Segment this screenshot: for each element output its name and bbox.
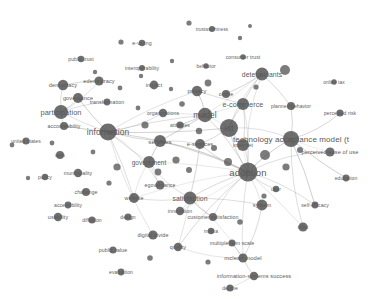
network-node-unlabeled[interactable] [10,143,15,148]
network-node-unlabeled[interactable] [93,70,97,74]
network-node-unlabeled[interactable] [196,128,202,134]
network-edge [190,198,262,205]
network-node-unlabeled[interactable] [261,193,266,198]
network-node[interactable] [129,193,139,203]
network-node[interactable] [82,188,90,196]
network-node-unlabeled[interactable] [238,36,242,40]
network-node[interactable] [139,65,145,71]
network-node[interactable] [155,180,164,189]
network-node[interactable] [239,163,258,182]
network-node-unlabeled[interactable] [91,150,96,155]
network-node[interactable] [198,108,212,122]
network-node[interactable] [78,56,84,62]
network-node-unlabeled[interactable] [179,101,185,107]
network-node-unlabeled[interactable] [169,87,173,91]
network-node-unlabeled[interactable] [211,145,217,151]
network-node[interactable] [150,81,159,90]
network-node[interactable] [154,135,166,147]
network-node[interactable] [312,202,319,209]
network-node[interactable] [273,186,279,192]
network-node-unlabeled[interactable] [106,180,111,185]
network-node[interactable] [287,102,295,110]
network-node-unlabeled[interactable] [172,156,179,163]
network-node[interactable] [159,109,167,117]
network-node[interactable] [226,284,233,291]
network-node-unlabeled[interactable] [118,86,123,91]
network-node[interactable] [88,216,95,223]
network-node-unlabeled[interactable] [205,80,212,87]
network-node[interactable] [283,131,299,147]
network-node[interactable] [325,147,334,156]
network-node[interactable] [192,86,202,96]
network-node-unlabeled[interactable] [170,59,174,63]
network-node[interactable] [208,228,214,234]
network-node[interactable] [195,139,205,149]
network-edge [291,113,340,139]
network-node-unlabeled[interactable] [113,163,120,170]
network-node[interactable] [148,230,157,239]
network-node[interactable] [60,122,68,130]
network-node[interactable] [228,239,235,246]
network-node[interactable] [73,93,83,103]
network-node[interactable] [237,98,249,110]
network-node[interactable] [74,169,82,177]
network-node[interactable] [238,253,247,262]
network-node-unlabeled[interactable] [253,84,258,89]
network-node[interactable] [174,243,182,251]
network-node[interactable] [257,200,268,211]
network-node[interactable] [209,26,215,32]
network-node[interactable] [336,109,343,116]
network-node[interactable] [56,151,64,159]
network-node-unlabeled[interactable] [224,158,232,166]
network-node-unlabeled[interactable] [260,150,270,160]
network-node[interactable] [65,202,72,209]
network-node[interactable] [109,246,116,253]
network-node[interactable] [240,54,246,60]
network-node[interactable] [118,269,125,276]
network-node[interactable] [124,213,131,220]
network-node-unlabeled[interactable] [248,24,252,28]
network-node[interactable] [256,68,269,81]
network-node-unlabeled[interactable] [186,20,191,25]
network-node-unlabeled[interactable] [141,121,148,128]
network-edge [248,172,303,227]
network-node[interactable] [176,207,184,215]
network-node[interactable] [139,40,145,46]
network-node-unlabeled[interactable] [297,147,303,153]
network-node[interactable] [54,105,68,119]
network-node[interactable] [298,222,307,231]
network-node[interactable] [220,119,238,137]
network-node-unlabeled[interactable] [136,106,141,111]
network-node[interactable] [22,137,29,144]
network-node[interactable] [143,156,155,168]
network-node[interactable] [203,63,209,69]
network-node[interactable] [54,213,62,221]
network-node[interactable] [176,121,183,128]
network-node-unlabeled[interactable] [26,176,30,180]
network-edge [134,198,190,200]
network-node-unlabeled[interactable] [205,259,210,264]
network-node[interactable] [331,79,337,85]
network-node[interactable] [209,213,217,221]
network-node-unlabeled[interactable] [237,219,243,225]
network-visualization: trustworthinesse-votingconsumer trustpub… [0,0,381,299]
network-node-unlabeled[interactable] [139,74,143,78]
network-node-unlabeled[interactable] [118,39,123,44]
network-node-unlabeled[interactable] [186,167,192,173]
network-node[interactable] [104,99,111,106]
network-node-unlabeled[interactable] [50,141,55,146]
network-node[interactable] [222,90,230,98]
network-node[interactable] [184,192,197,205]
network-node[interactable] [250,272,258,280]
edge-layer [60,74,346,288]
network-node[interactable] [42,174,48,180]
network-node-unlabeled[interactable] [282,163,289,170]
network-node[interactable] [343,175,350,182]
network-node-unlabeled[interactable] [155,169,162,176]
network-node[interactable] [94,76,103,85]
network-node-unlabeled[interactable] [280,65,290,75]
network-node-unlabeled[interactable] [147,255,153,261]
network-node[interactable] [100,124,117,141]
network-node[interactable] [58,80,68,90]
network-node[interactable] [237,139,249,151]
